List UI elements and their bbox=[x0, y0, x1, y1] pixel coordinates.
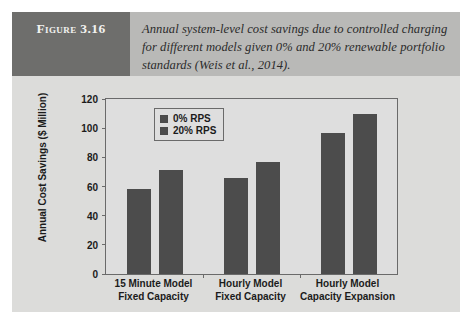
bar bbox=[127, 189, 151, 274]
legend-item: 0% RPS bbox=[160, 113, 216, 124]
bars-layer bbox=[106, 99, 397, 274]
x-axis-labels: 15 Minute ModelFixed CapacityHourly Mode… bbox=[105, 278, 398, 310]
y-axis-tick-label: 20 bbox=[87, 239, 98, 250]
plot-area: 020406080100120 0% RPS20% RPS bbox=[105, 98, 398, 275]
y-axis-tick-label: 120 bbox=[81, 94, 98, 105]
y-axis-tick-label: 40 bbox=[87, 210, 98, 221]
bar bbox=[353, 114, 377, 274]
legend-item: 20% RPS bbox=[160, 125, 216, 136]
figure-number-label: Figure 3.16 bbox=[36, 21, 105, 37]
x-axis-category-label-line: 15 Minute Model bbox=[105, 278, 202, 291]
x-axis-category-label: 15 Minute ModelFixed Capacity bbox=[105, 278, 202, 303]
figure-caption-text: Annual system-level cost savings due to … bbox=[142, 22, 447, 72]
x-axis-category-label-line: Hourly Model bbox=[202, 278, 299, 291]
y-axis-tick-label: 60 bbox=[87, 181, 98, 192]
figure-number-block: Figure 3.16 bbox=[12, 12, 130, 76]
bar bbox=[321, 133, 345, 274]
x-axis-category-label-line: Capacity Expansion bbox=[299, 291, 396, 304]
x-axis-category-label-line: Fixed Capacity bbox=[202, 291, 299, 304]
legend-label: 20% RPS bbox=[173, 125, 216, 136]
chart-area: Annual Cost Savings ($ Million) 02040608… bbox=[12, 76, 460, 312]
x-axis-category-label-line: Fixed Capacity bbox=[105, 291, 202, 304]
legend-label: 0% RPS bbox=[173, 113, 211, 124]
figure-caption-block: Annual system-level cost savings due to … bbox=[130, 12, 460, 76]
y-axis-tick-label: 100 bbox=[81, 123, 98, 134]
x-axis-category-label: Hourly ModelCapacity Expansion bbox=[299, 278, 396, 303]
chart-legend: 0% RPS20% RPS bbox=[154, 108, 224, 141]
y-axis-title: Annual Cost Savings ($ Million) bbox=[37, 78, 48, 258]
legend-swatch-icon bbox=[160, 115, 168, 123]
y-axis-tick-label: 0 bbox=[92, 269, 98, 280]
figure-header: Figure 3.16 Annual system-level cost sav… bbox=[12, 12, 460, 76]
y-axis-tick-label: 80 bbox=[87, 152, 98, 163]
figure-container: Figure 3.16 Annual system-level cost sav… bbox=[12, 12, 460, 312]
legend-swatch-icon bbox=[160, 127, 168, 135]
bar bbox=[256, 162, 280, 274]
x-axis-category-label-line: Hourly Model bbox=[299, 278, 396, 291]
x-axis-category-label: Hourly ModelFixed Capacity bbox=[202, 278, 299, 303]
bar bbox=[224, 178, 248, 274]
bar bbox=[159, 170, 183, 274]
